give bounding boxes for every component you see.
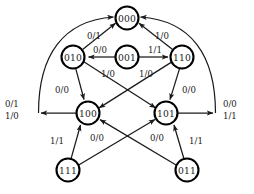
- state-node-101[interactable]: 101: [155, 102, 178, 125]
- edge-label-011-101: 1/1: [189, 136, 203, 146]
- edge-label-111-101: 0/0: [90, 133, 104, 143]
- state-diagram-svg: 0/1 1/0 0/0 1/1 0/0 1/0 1/0 0/0 1/1 0/0 …: [0, 0, 254, 194]
- edge-111-to-100: [71, 125, 81, 159]
- edge-label-010-100: 0/0: [55, 85, 69, 95]
- edge-label-100-000-bottom: 1/0: [5, 111, 19, 121]
- edge-label-111-100: 1/1: [50, 136, 64, 146]
- nodes-group: 000 010 001 110 100 101: [57, 7, 199, 182]
- edge-label-001-010: 0/0: [93, 45, 107, 55]
- state-node-110[interactable]: 110: [171, 46, 194, 69]
- state-node-100-label: 100: [79, 108, 97, 119]
- state-node-001[interactable]: 001: [116, 46, 139, 69]
- edge-110-to-101: [170, 68, 180, 99]
- state-node-010[interactable]: 010: [62, 46, 85, 69]
- state-node-111-label: 111: [59, 165, 77, 176]
- state-node-000[interactable]: 000: [116, 7, 139, 30]
- edge-label-001-110: 1/1: [148, 45, 162, 55]
- edge-011-to-101: [174, 125, 184, 159]
- state-node-001-label: 001: [118, 52, 136, 63]
- state-node-100[interactable]: 100: [77, 102, 100, 125]
- edge-010-to-100: [76, 68, 84, 99]
- edge-label-010-101: 1/0: [101, 69, 115, 79]
- edge-label-101-000-bottom: 1/1: [223, 111, 237, 121]
- edge-label-010-000: 0/1: [87, 31, 101, 41]
- state-node-010-label: 010: [64, 52, 82, 63]
- state-node-011-label: 011: [178, 165, 196, 176]
- state-node-011[interactable]: 011: [176, 159, 199, 182]
- state-node-110-label: 110: [173, 52, 191, 63]
- edge-label-110-000: 1/0: [155, 31, 169, 41]
- state-node-111[interactable]: 111: [57, 159, 80, 182]
- edge-label-110-100: 1/0: [139, 69, 153, 79]
- edge-label-101-000-top: 0/0: [223, 99, 237, 109]
- edge-011-to-100: [100, 120, 177, 166]
- edge-label-100-000-top: 0/1: [5, 99, 19, 109]
- state-node-000-label: 000: [118, 13, 136, 24]
- state-diagram-canvas: 0/1 1/0 0/0 1/1 0/0 1/0 1/0 0/0 1/1 0/0 …: [0, 0, 254, 194]
- state-node-101-label: 101: [157, 108, 175, 119]
- edge-label-110-101: 0/0: [182, 85, 196, 95]
- edge-label-011-100: 0/0: [150, 133, 164, 143]
